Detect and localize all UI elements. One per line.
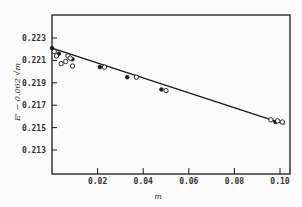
y-tick-label: 0.223 <box>22 34 46 43</box>
x-tick-label: 0.10 <box>270 177 289 186</box>
open-point <box>54 54 58 58</box>
x-tick-label: 0.08 <box>225 177 244 186</box>
filled-point <box>98 65 102 69</box>
open-point <box>276 119 280 123</box>
open-point <box>70 64 74 68</box>
chart: 0.020.040.060.080.10 0.2230.2210.2190.21… <box>0 0 302 207</box>
open-point <box>52 49 56 53</box>
x-axis-title: m <box>154 192 162 201</box>
open-point <box>68 56 72 60</box>
x-tick-label: 0.04 <box>134 177 153 186</box>
open-point <box>134 75 138 79</box>
y-tick-label: 0.213 <box>22 146 46 155</box>
open-point <box>164 88 168 92</box>
open-point <box>269 118 273 122</box>
x-tick-label: 0.06 <box>179 177 198 186</box>
open-point <box>102 65 106 69</box>
plot-frame <box>52 15 290 174</box>
open-point <box>59 62 63 66</box>
open-point <box>63 59 67 63</box>
filled-point <box>160 88 164 92</box>
regression-line <box>52 48 285 124</box>
y-tick-label: 0.217 <box>22 101 46 110</box>
x-tick-label: 0.02 <box>88 177 107 186</box>
y-tick-label: 0.215 <box>22 124 46 133</box>
open-point <box>280 120 284 124</box>
x-axis-ticks: 0.020.040.060.080.10 <box>88 168 290 186</box>
fit-line <box>52 48 285 124</box>
y-tick-label: 0.221 <box>22 56 46 65</box>
y-axis-title: E' − 0.062 √m <box>13 63 22 122</box>
y-tick-label: 0.219 <box>22 79 46 88</box>
filled-point <box>125 75 129 79</box>
